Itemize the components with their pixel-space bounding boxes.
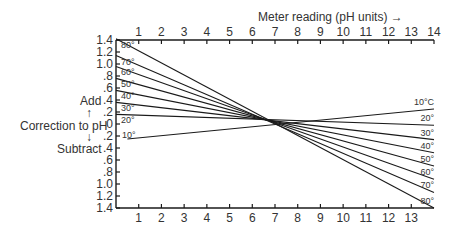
series-line-40 — [116, 90, 434, 152]
y-axis-title: Correction to pH — [20, 120, 107, 132]
x-tick-label-top: 8 — [294, 26, 301, 38]
x-tick-label-bottom: 8 — [294, 212, 301, 224]
right-temp-label: 80° — [420, 197, 434, 206]
right-temp-label: 50° — [420, 155, 434, 164]
left-temp-label: 70° — [121, 58, 135, 67]
right-temp-label: 40° — [420, 142, 434, 151]
left-temp-label: 50° — [121, 80, 135, 89]
x-tick-label-bottom: 11 — [360, 212, 372, 224]
x-tick-label-top: 1 — [135, 26, 142, 38]
x-tick-label-top: 7 — [272, 26, 279, 38]
x-tick-label-bottom: 9 — [317, 212, 324, 224]
x-tick-label-top: 2 — [158, 26, 165, 38]
x-tick-label-bottom: 6 — [249, 212, 256, 224]
x-tick-label-top: 12 — [382, 26, 395, 38]
x-tick-label-bottom: 10 — [336, 212, 349, 224]
right-temp-label: 30° — [420, 129, 434, 138]
series-line-30 — [116, 102, 434, 139]
x-tick-label-top: 10 — [336, 26, 349, 38]
left-temp-label: 60° — [121, 68, 135, 77]
right-temp-label: 10°C — [414, 98, 434, 107]
x-tick-label-bottom: 12 — [382, 212, 395, 224]
left-temp-label: 30° — [121, 104, 135, 113]
series-line-50 — [116, 78, 434, 166]
x-tick-label-top: 9 — [317, 26, 324, 38]
x-tick-label-bottom: 7 — [272, 212, 279, 224]
add-arrow-icon: ↑ — [86, 107, 92, 119]
x-tick-label-bottom: 2 — [158, 212, 165, 224]
x-axis-title: Meter reading (pH units) → — [258, 11, 403, 23]
x-tick-label-top: 11 — [360, 26, 372, 38]
series-line-60 — [116, 66, 434, 179]
left-temp-label: 20° — [121, 116, 135, 125]
x-tick-label-top: 14 — [427, 26, 440, 38]
left-temp-label: 10° — [122, 131, 136, 140]
x-tick-label-bottom: 3 — [181, 212, 188, 224]
x-tick-label-bottom: 5 — [226, 212, 233, 224]
x-tick-label-bottom: 1 — [135, 212, 142, 224]
left-temp-label: 40° — [121, 92, 135, 101]
right-temp-label: 60° — [420, 168, 434, 177]
x-tick-label-bottom: 4 — [204, 212, 211, 224]
x-tick-label-bottom: 13 — [405, 212, 418, 224]
right-temp-label: 20° — [420, 114, 434, 123]
x-tick-label-top: 5 — [226, 26, 233, 38]
x-tick-label-top: 13 — [405, 26, 418, 38]
x-tick-label-top: 6 — [249, 26, 256, 38]
y-tick-label: 1.4 — [96, 202, 113, 214]
x-tick-label-top: 3 — [181, 26, 188, 38]
left-temp-label: 80° — [121, 41, 135, 50]
right-temp-label: 70° — [420, 181, 434, 190]
x-tick-label-top: 4 — [204, 26, 211, 38]
y-label-subtract: Subtract — [57, 143, 102, 155]
